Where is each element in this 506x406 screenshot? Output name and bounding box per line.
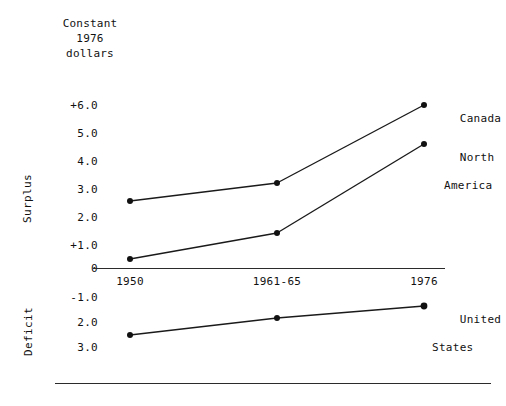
series-label-north-america-line2: America: [432, 179, 494, 193]
data-point-united-states-1976: [421, 303, 428, 310]
series-canada: [127, 102, 427, 204]
data-point-north-america-1976: [421, 141, 427, 147]
series-label-united-states-line1: United: [460, 313, 502, 326]
plot-area: [0, 0, 506, 406]
series-label-north-america: North America: [432, 137, 494, 221]
data-point-north-america-1961-65: [274, 230, 280, 236]
series-north-america: [127, 141, 427, 262]
series-label-north-america-line1: North: [460, 151, 495, 164]
data-point-united-states-1950: [127, 332, 133, 338]
data-point-canada-1976: [421, 102, 427, 108]
data-point-canada-1950: [127, 198, 133, 204]
series-united-states: [127, 303, 427, 338]
series-label-canada: Canada: [432, 98, 501, 140]
series-label-united-states-line2: States: [432, 341, 501, 355]
data-point-canada-1961-65: [274, 180, 280, 186]
series-label-united-states: United States: [432, 299, 501, 383]
data-point-united-states-1961-65: [274, 315, 280, 321]
series-label-canada-text: Canada: [460, 112, 502, 125]
data-point-north-america-1950: [127, 256, 133, 262]
chart-page: Constant 1976 dollars Surplus Deficit +6…: [0, 0, 506, 406]
